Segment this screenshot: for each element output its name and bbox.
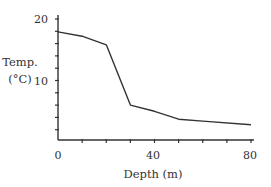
y-axis-label-line1: Temp. xyxy=(2,55,38,69)
temperature-depth-chart: 20 10 0 40 80 Temp. (°C) Depth (m) xyxy=(0,0,271,187)
ytick-label-10: 10 xyxy=(34,75,48,88)
y-axis-label-line2: (°C) xyxy=(8,72,32,86)
x-axis-label: Depth (m) xyxy=(124,167,183,181)
xtick-label-0: 0 xyxy=(55,149,62,162)
axes xyxy=(55,15,254,143)
chart-canvas: 20 10 0 40 80 Temp. (°C) Depth (m) xyxy=(0,0,271,187)
temperature-line xyxy=(58,32,251,125)
ytick-label-20: 20 xyxy=(34,13,48,26)
xtick-label-80: 80 xyxy=(243,149,257,162)
xtick-label-40: 40 xyxy=(146,149,160,162)
